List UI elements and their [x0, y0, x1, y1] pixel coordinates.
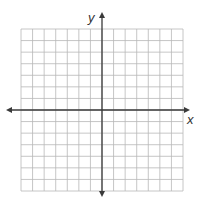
axes [6, 12, 190, 197]
y-axis-down-arrow-icon [99, 191, 105, 197]
y-axis-up-arrow-icon [99, 12, 105, 18]
y-axis-label: y [87, 10, 96, 25]
x-axis-left-arrow-icon [6, 107, 12, 113]
coordinate-plane: y x [0, 0, 208, 206]
x-axis-label: x [186, 112, 194, 127]
